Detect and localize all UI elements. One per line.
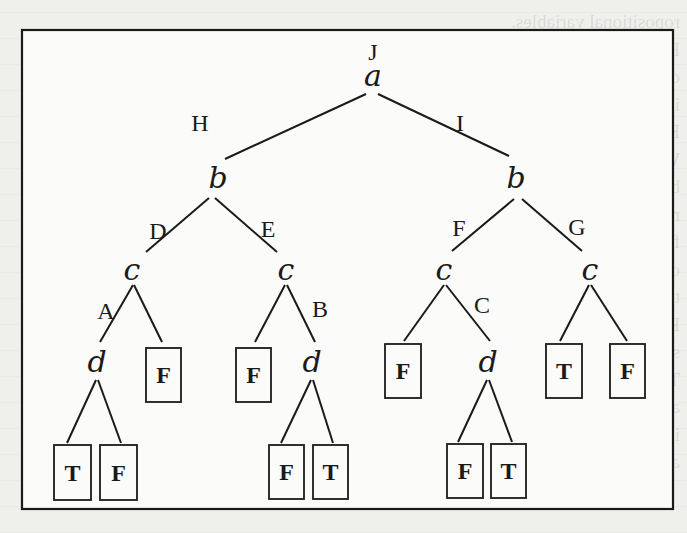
node-c1: c — [124, 252, 141, 287]
leaf-value: F — [111, 460, 126, 486]
edge-label-F: F — [452, 215, 465, 241]
leaf-value: T — [500, 458, 516, 484]
edge-label-D: D — [149, 218, 166, 244]
node-b2: b — [506, 160, 525, 195]
leaf-L2-false: F — [236, 348, 271, 402]
leaf-value: T — [64, 460, 80, 486]
node-d3: d — [478, 344, 497, 379]
leaf-L8-false: F — [269, 445, 304, 499]
leaf-value: T — [556, 358, 572, 384]
edge-label-C: C — [474, 292, 490, 318]
leaf-value: T — [322, 459, 338, 485]
leaf-L11-true: T — [491, 444, 526, 498]
leaf-L5-false: F — [610, 344, 645, 398]
edge-label-I: I — [456, 110, 464, 136]
node-c3: c — [436, 252, 453, 287]
leaf-L6-true: T — [54, 445, 91, 500]
decision-tree-figure: HIDEFGABC abbccccddd FFFTFTFFTFT J — [0, 0, 687, 533]
leaf-value: F — [279, 459, 294, 485]
leaf-L3-false: F — [385, 344, 421, 398]
leaf-value: F — [620, 358, 635, 384]
leaf-L9-true: T — [313, 445, 348, 499]
node-c2: c — [278, 252, 295, 287]
edge-label-A: A — [97, 298, 115, 324]
node-c4: c — [582, 252, 599, 287]
leaf-L7-false: F — [100, 445, 137, 500]
leaf-value: F — [246, 362, 261, 388]
leaf-value: F — [396, 358, 411, 384]
leaf-L1-false: F — [146, 348, 181, 402]
scanned-page: ropositional variables.By definition, a … — [0, 0, 687, 533]
leaf-L10-false: F — [447, 444, 483, 498]
edge-label-E: E — [261, 216, 276, 242]
leaf-L4-true: T — [546, 344, 582, 398]
node-d1: d — [87, 344, 106, 379]
leaf-value: F — [458, 458, 473, 484]
edge-label-H: H — [191, 110, 208, 136]
node-d2: d — [302, 344, 321, 379]
leaf-value: F — [156, 362, 171, 388]
edge-label-G: G — [568, 214, 585, 240]
edge-label-B: B — [312, 296, 328, 322]
node-b1: b — [208, 160, 227, 195]
root-label: J — [368, 39, 377, 65]
